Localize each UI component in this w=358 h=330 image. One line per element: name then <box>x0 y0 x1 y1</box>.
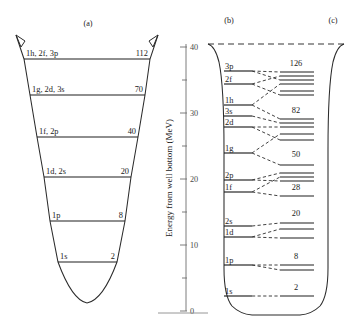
splitting-connector <box>252 71 280 72</box>
splitting-connector <box>252 84 280 95</box>
splitting-connector <box>252 116 280 123</box>
panel-b-orbital-label: 3p <box>225 62 233 71</box>
panel-a-left-arrowhead <box>16 35 25 47</box>
splitting-connector <box>252 84 280 105</box>
panel-a-occupancy-label: 40 <box>128 127 136 136</box>
energy-axis-tick-label: 40 <box>190 43 198 52</box>
panel-bc-group: 3p2f1h3s2d1g2p1f2s1d1p1s 1268250282082 <box>208 44 344 315</box>
splitting-connector <box>252 265 280 270</box>
energy-axis-tick-labels: 010203040 <box>190 43 198 316</box>
magic-number-label: 8 <box>294 252 298 261</box>
panel-b-orbital-label: 1s <box>225 287 232 296</box>
panel-a-orbital-label: 1p <box>52 211 60 220</box>
panel-a-occupancy-label: 20 <box>121 167 129 176</box>
panel-a-level-labels: 1h, 2f, 3p1121g, 2d, 3s701f, 2p401d, 2s2… <box>26 49 148 261</box>
shell-model-figure: 1h, 2f, 3p1121g, 2d, 3s701f, 2p401d, 2s2… <box>0 0 358 330</box>
panel-c-magic-numbers: 1268250282082 <box>290 59 303 292</box>
splitting-connector <box>252 177 280 192</box>
magic-number-label: 20 <box>292 209 300 218</box>
spin-orbit-splitting-connectors <box>252 71 280 296</box>
panel-b-orbital-label: 1p <box>225 256 233 265</box>
panel-c-label: (c) <box>328 16 337 25</box>
panel-a-orbital-label: 1f, 2p <box>39 127 59 136</box>
figure-canvas: 1h, 2f, 3p1121g, 2d, 3s701f, 2p401d, 2s2… <box>0 0 358 330</box>
splitting-connector <box>252 134 280 153</box>
magic-number-label: 82 <box>292 106 300 115</box>
panel-a-occupancy-label: 112 <box>136 49 148 58</box>
panel-a-occupancy-label: 2 <box>111 252 115 261</box>
woods-saxon-right-wall <box>300 44 344 315</box>
energy-axis-tick-label: 30 <box>190 109 198 118</box>
panel-b-orbital-label: 1g <box>225 144 234 153</box>
splitting-connector <box>252 237 280 238</box>
panel-b-orbital-label: 2p <box>225 171 233 180</box>
splitting-connector <box>252 76 280 84</box>
panel-b-orbital-label: 3s <box>225 107 232 116</box>
panel-a-occupancy-label: 8 <box>119 211 123 220</box>
panel-b-orbital-label: 1d <box>225 228 234 237</box>
panel-b-level-labels: 3p2f1h3s2d1g2p1f2s1d1p1s <box>225 62 234 296</box>
splitting-connector <box>252 153 280 165</box>
panel-b-orbital-label: 2d <box>225 118 234 127</box>
splitting-connector <box>252 127 280 140</box>
panel-a-orbital-label: 1d, 2s <box>46 167 66 176</box>
magic-number-label: 28 <box>292 183 300 192</box>
panel-a-group: 1h, 2f, 3p1121g, 2d, 3s701f, 2p401d, 2s2… <box>16 35 158 303</box>
panel-b-orbital-label: 2f <box>225 75 232 84</box>
panel-b-orbital-label: 1h <box>225 96 234 105</box>
energy-axis-tick-label: 20 <box>190 175 198 184</box>
magic-number-label: 126 <box>290 59 303 68</box>
panel-a-orbital-label: 1s <box>60 252 67 261</box>
energy-axis-tick-label: 0 <box>190 307 194 316</box>
panel-b-label: (b) <box>224 16 234 25</box>
splitting-connector <box>252 180 280 181</box>
splitting-connector <box>252 223 280 226</box>
energy-axis-tick-label: 10 <box>190 241 198 250</box>
splitting-connector <box>252 229 280 237</box>
splitting-connector <box>252 105 280 119</box>
splitting-connector <box>252 192 280 196</box>
panel-a-orbital-label: 1g, 2d, 3s <box>32 85 65 94</box>
panel-b-orbital-label: 1f <box>225 183 232 192</box>
panel-b-orbital-label: 2s <box>225 217 232 226</box>
splitting-connector <box>252 71 280 80</box>
panel-a-right-arrowhead <box>149 35 158 47</box>
panel-a-orbital-label: 1h, 2f, 3p <box>26 49 58 58</box>
panel-labels: (a) (b) (c) <box>83 16 337 28</box>
energy-axis-title: Energy from well bottom (MeV) <box>164 119 174 237</box>
energy-axis-group: 010203040 Energy from well bottom (MeV) <box>158 43 208 316</box>
panel-a-label: (a) <box>83 19 92 28</box>
splitting-connector <box>252 173 280 180</box>
magic-number-label: 50 <box>292 150 300 159</box>
magic-number-label: 2 <box>294 283 298 292</box>
panel-a-occupancy-label: 70 <box>135 85 143 94</box>
